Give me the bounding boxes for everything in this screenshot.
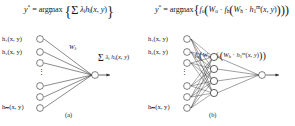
panel-a-node-1	[37, 36, 44, 43]
panel-a-output-arrow	[99, 73, 110, 76]
panel-a-node-4	[37, 83, 44, 90]
panel-a-edges	[44, 39, 92, 108]
panel-b-caption: (b)	[209, 112, 216, 118]
panel-b-hidden-node-3	[210, 77, 217, 84]
panel-b-input-node-1	[184, 36, 191, 43]
panel-b-input-node-4	[184, 83, 191, 90]
panel-a-output-node	[92, 72, 99, 79]
panel-b: y* = argmaxy{fo(Wo · fh(Wh · h1m(x, y)))…	[147, 0, 295, 126]
panel-b-hidden-node-2	[210, 65, 217, 72]
panel-b-hidden-node-4	[210, 89, 217, 96]
panel-b-input-node-3	[184, 60, 191, 67]
panel-b-output-node	[259, 72, 266, 79]
panel-a-node-2	[37, 49, 44, 56]
panel-a-node-3	[37, 60, 44, 67]
panel-b-network-graphic	[147, 0, 295, 126]
panel-b-input-nodes	[184, 36, 191, 112]
panel-a-caption: (a)	[65, 112, 72, 118]
panel-b-output-arrow	[266, 73, 279, 76]
panel-a-input-nodes	[37, 36, 44, 112]
panel-b-hidden-output-edges	[217, 57, 259, 93]
panel-a-node-5	[37, 94, 44, 101]
panel-b-input-hidden-edges	[191, 39, 213, 108]
panel-a-node-6	[37, 105, 44, 112]
panel-a-network-graphic	[0, 0, 147, 126]
panel-b-input-node-5	[184, 94, 191, 101]
panel-a: y* = argmaxy {Σi λihi(x, y)} h₁(x, y) h₂…	[0, 0, 147, 126]
panel-b-hidden-nodes	[210, 53, 217, 96]
figure-two-panel-diagram: y* = argmaxy {Σi λihi(x, y)} h₁(x, y) h₂…	[0, 0, 295, 126]
panel-b-input-node-6	[184, 105, 191, 112]
panel-b-hidden-node-1	[210, 53, 217, 60]
panel-b-input-node-2	[184, 49, 191, 56]
